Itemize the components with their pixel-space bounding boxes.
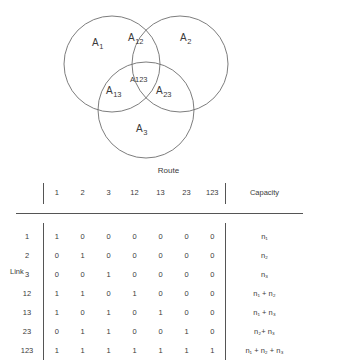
cell-r6c1: 1	[70, 341, 96, 360]
incidence-matrix-table: 1 2 3 12 13 23 123 Capacity 1 1 0 0 0 0	[16, 183, 303, 360]
cell-r6c3: 1	[122, 341, 148, 360]
cell-r3c6: 0	[200, 284, 226, 303]
table-row: 23 0 1 1 0 0 1 0 n₂+ n₃	[16, 322, 303, 341]
cell-r0c3: 0	[122, 223, 148, 246]
row-header-link-123: 123	[16, 341, 44, 360]
venn-region-label-a13: A13	[106, 86, 122, 99]
cell-r5c2: 1	[96, 322, 122, 341]
cell-r0c0: 1	[44, 223, 70, 246]
venn-region-label-a23: A23	[156, 86, 172, 99]
row-header-link-23: 23	[16, 322, 44, 341]
row-header-link-1: 1	[16, 223, 44, 246]
venn-label-base-a13: A	[106, 85, 113, 96]
row-header-link-2: 2	[16, 246, 44, 265]
cell-r3c4: 0	[148, 284, 174, 303]
table-col-header-2: 2	[70, 183, 96, 204]
cell-r2c2: 1	[96, 265, 122, 284]
cell-r6c5: 1	[174, 341, 200, 360]
venn-label-sub-a13: 13	[113, 90, 121, 99]
venn-label-base-a12: A	[128, 32, 135, 43]
table-header-row: 1 2 3 12 13 23 123 Capacity	[16, 183, 303, 204]
cell-capacity-row-12: n₁ + n₂	[226, 284, 304, 303]
venn-label-sub-a12: 12	[135, 37, 143, 46]
table-col-header-23: 23	[174, 183, 200, 204]
cell-r4c4: 1	[148, 303, 174, 322]
venn-label-base-a23: A	[156, 85, 163, 96]
table-col-header-capacity: Capacity	[226, 183, 304, 204]
cell-r1c4: 0	[148, 246, 174, 265]
cell-r2c3: 0	[122, 265, 148, 284]
table-row: 2 0 1 0 0 0 0 0 n₂	[16, 246, 303, 265]
venn-region-label-a12: A12	[128, 33, 144, 46]
cell-r2c5: 0	[174, 265, 200, 284]
table-row-axis-label: Link	[10, 267, 24, 276]
cell-capacity-row-1: n₁	[226, 223, 304, 246]
cell-r2c1: 0	[70, 265, 96, 284]
table-col-header-123: 123	[200, 183, 226, 204]
incidence-matrix-section: Link 1 2 3 12 13 23 123 Capacity	[0, 183, 337, 362]
cell-r0c6: 0	[200, 223, 226, 246]
table-row: 13 1 0 1 0 1 0 0 n₁ + n₃	[16, 303, 303, 322]
cell-capacity-row-123: n₁ + n₂ + n₃	[226, 341, 304, 360]
table-body: 1 1 0 0 0 0 0 0 n₁ 2 0 1 0 0 0 0 0 n₂	[16, 223, 303, 360]
venn-label-sub-a1: 1	[99, 42, 103, 51]
venn-label-base-a1: A	[92, 37, 99, 48]
cell-r2c4: 0	[148, 265, 174, 284]
cell-r2c0: 0	[44, 265, 70, 284]
cell-capacity-row-2: n₂	[226, 246, 304, 265]
cell-r0c4: 0	[148, 223, 174, 246]
table-row: 12 1 1 0 1 0 0 0 n₁ + n₂	[16, 284, 303, 303]
table-col-header-3: 3	[96, 183, 122, 204]
cell-r5c4: 0	[148, 322, 174, 341]
cell-r6c2: 1	[96, 341, 122, 360]
venn-label-base-a3: A	[136, 123, 143, 134]
cell-r5c1: 1	[70, 322, 96, 341]
venn-region-label-a2: A2	[180, 33, 191, 46]
table-row: 1 1 0 0 0 0 0 0 n₁	[16, 223, 303, 246]
cell-r3c1: 1	[70, 284, 96, 303]
venn-caption-route: Route	[0, 166, 337, 175]
cell-r5c5: 1	[174, 322, 200, 341]
cell-capacity-row-3: n₃	[226, 265, 304, 284]
cell-r3c0: 1	[44, 284, 70, 303]
cell-r3c2: 0	[96, 284, 122, 303]
cell-r0c2: 0	[96, 223, 122, 246]
header-divider-line	[16, 213, 303, 214]
row-header-link-13: 13	[16, 303, 44, 322]
cell-r4c0: 1	[44, 303, 70, 322]
venn-region-label-a123: A123	[130, 76, 148, 84]
cell-r4c1: 0	[70, 303, 96, 322]
venn-label-base-a2: A	[180, 32, 187, 43]
venn-region-label-a3: A3	[136, 124, 147, 137]
venn-label-sub-a3: 3	[143, 128, 147, 137]
cell-r5c6: 0	[200, 322, 226, 341]
cell-capacity-row-23: n₂+ n₃	[226, 322, 304, 341]
cell-r5c0: 0	[44, 322, 70, 341]
cell-r6c0: 1	[44, 341, 70, 360]
cell-r6c6: 1	[200, 341, 226, 360]
cell-r5c3: 0	[122, 322, 148, 341]
cell-r4c6: 0	[200, 303, 226, 322]
cell-r6c4: 1	[148, 341, 174, 360]
table-corner-cell	[16, 183, 44, 204]
cell-r1c1: 1	[70, 246, 96, 265]
cell-r1c3: 0	[122, 246, 148, 265]
table-row: 123 1 1 1 1 1 1 1 n₁ + n₂ + n₃	[16, 341, 303, 360]
cell-r3c3: 1	[122, 284, 148, 303]
cell-r3c5: 0	[174, 284, 200, 303]
venn-label-base-a123: A123	[130, 75, 148, 84]
cell-r2c6: 0	[200, 265, 226, 284]
cell-r4c5: 0	[174, 303, 200, 322]
table-row: 3 0 0 1 0 0 0 0 n₃	[16, 265, 303, 284]
table-col-header-1: 1	[44, 183, 70, 204]
table-col-header-12: 12	[122, 183, 148, 204]
cell-r1c6: 0	[200, 246, 226, 265]
venn-label-sub-a2: 2	[187, 37, 191, 46]
cell-r1c0: 0	[44, 246, 70, 265]
cell-r4c2: 1	[96, 303, 122, 322]
cell-r4c3: 0	[122, 303, 148, 322]
venn-region-label-a1: A1	[92, 38, 103, 51]
cell-r0c5: 0	[174, 223, 200, 246]
cell-r1c2: 0	[96, 246, 122, 265]
cell-r0c1: 0	[70, 223, 96, 246]
